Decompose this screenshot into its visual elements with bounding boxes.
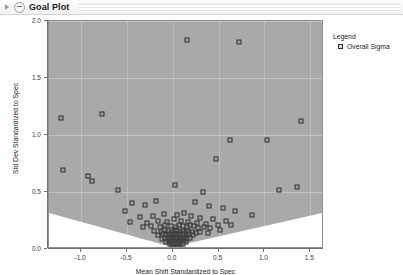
y-axis-line bbox=[47, 20, 48, 248]
y-axis-tick bbox=[44, 77, 47, 78]
panel-titlebar: Goal Plot bbox=[0, 0, 403, 15]
data-point[interactable] bbox=[229, 223, 234, 228]
x-axis-tick bbox=[309, 249, 310, 252]
data-point[interactable] bbox=[143, 202, 148, 207]
x-axis-tick-label: 0.5 bbox=[203, 254, 233, 261]
data-point[interactable] bbox=[171, 217, 176, 222]
y-axis-tick-label: 0.0 bbox=[15, 245, 41, 252]
x-axis-tick bbox=[263, 249, 264, 252]
y-axis-title: Std Dev Standardized to Spec bbox=[12, 83, 19, 174]
y-axis-tick bbox=[44, 248, 47, 249]
data-point[interactable] bbox=[233, 209, 238, 214]
legend-item-overall-sigma[interactable]: Overall Sigma bbox=[333, 43, 401, 50]
x-axis-tick bbox=[172, 249, 173, 252]
gridline-horizontal bbox=[49, 78, 322, 79]
data-point[interactable] bbox=[299, 119, 304, 124]
data-point[interactable] bbox=[123, 209, 128, 214]
x-axis-tick bbox=[126, 249, 127, 252]
page-title: Goal Plot bbox=[29, 2, 69, 12]
data-point[interactable] bbox=[223, 218, 228, 223]
data-point[interactable] bbox=[115, 187, 120, 192]
data-point[interactable] bbox=[249, 212, 254, 217]
triangle-right-icon[interactable] bbox=[4, 4, 11, 11]
x-axis-line bbox=[48, 248, 323, 249]
x-axis-tick-label: 1.0 bbox=[248, 254, 278, 261]
gridline-horizontal bbox=[49, 21, 322, 22]
data-point[interactable] bbox=[265, 137, 270, 142]
data-point[interactable] bbox=[211, 217, 216, 222]
gridline-vertical bbox=[310, 21, 311, 247]
data-point[interactable] bbox=[100, 112, 105, 117]
data-point[interactable] bbox=[213, 156, 218, 161]
data-point[interactable] bbox=[198, 229, 203, 234]
y-axis-tick-label: 0.5 bbox=[15, 188, 41, 195]
x-axis-tick bbox=[80, 249, 81, 252]
data-point[interactable] bbox=[181, 210, 186, 215]
open-square-marker bbox=[338, 44, 343, 49]
data-point[interactable] bbox=[221, 205, 226, 210]
data-point[interactable] bbox=[188, 235, 193, 240]
data-point[interactable] bbox=[140, 225, 145, 230]
data-point[interactable] bbox=[58, 115, 63, 120]
data-point[interactable] bbox=[161, 211, 166, 216]
data-point[interactable] bbox=[227, 137, 232, 142]
data-point[interactable] bbox=[90, 178, 95, 183]
data-point[interactable] bbox=[156, 218, 161, 223]
data-point[interactable] bbox=[150, 213, 155, 218]
minus-circle-icon[interactable] bbox=[14, 2, 25, 13]
y-axis-tick-label: 1.5 bbox=[15, 74, 41, 81]
x-axis-tick-label: 0.0 bbox=[157, 254, 187, 261]
data-point[interactable] bbox=[218, 227, 223, 232]
data-point[interactable] bbox=[127, 219, 132, 224]
data-point[interactable] bbox=[130, 201, 135, 206]
gridline-horizontal bbox=[49, 135, 322, 136]
titlebar-filler bbox=[78, 3, 400, 12]
data-point[interactable] bbox=[180, 242, 185, 247]
x-axis-title: Mean Shift Standardized to Spec bbox=[106, 268, 266, 275]
data-point[interactable] bbox=[154, 199, 159, 204]
data-point[interactable] bbox=[236, 39, 241, 44]
y-axis-tick bbox=[44, 134, 47, 135]
data-point[interactable] bbox=[201, 190, 206, 195]
gridline-vertical bbox=[173, 21, 174, 247]
data-point[interactable] bbox=[205, 231, 210, 236]
y-axis-tick bbox=[44, 191, 47, 192]
gridline-vertical bbox=[264, 21, 265, 247]
data-point[interactable] bbox=[277, 187, 282, 192]
data-point[interactable] bbox=[137, 215, 142, 220]
x-axis-tick-label: 1.5 bbox=[294, 254, 324, 261]
data-point[interactable] bbox=[184, 38, 189, 43]
gridline-vertical bbox=[219, 21, 220, 247]
x-axis-tick-label: -1.0 bbox=[65, 254, 95, 261]
data-point[interactable] bbox=[295, 185, 300, 190]
y-axis-tick bbox=[44, 20, 47, 21]
legend: Legend Overall Sigma bbox=[333, 33, 401, 50]
chart-area: 0.00.51.01.52.0-1.0-0.50.00.51.01.5 Std … bbox=[0, 15, 403, 275]
data-point[interactable] bbox=[172, 183, 177, 188]
x-axis-tick bbox=[218, 249, 219, 252]
goal-plot-panel: Goal Plot 0.00.51.01.52.0-1.0-0.50.00.51… bbox=[0, 0, 403, 275]
data-point[interactable] bbox=[60, 168, 65, 173]
data-point[interactable] bbox=[207, 203, 212, 208]
legend-item-label: Overall Sigma bbox=[347, 43, 390, 50]
data-point[interactable] bbox=[192, 200, 197, 205]
x-axis-tick-label: -0.5 bbox=[111, 254, 141, 261]
y-axis-tick-label: 2.0 bbox=[15, 17, 41, 24]
legend-title: Legend bbox=[333, 33, 401, 40]
gridline-vertical bbox=[81, 21, 82, 247]
data-point[interactable] bbox=[189, 213, 194, 218]
scatter-plot-canvas[interactable] bbox=[48, 20, 323, 248]
